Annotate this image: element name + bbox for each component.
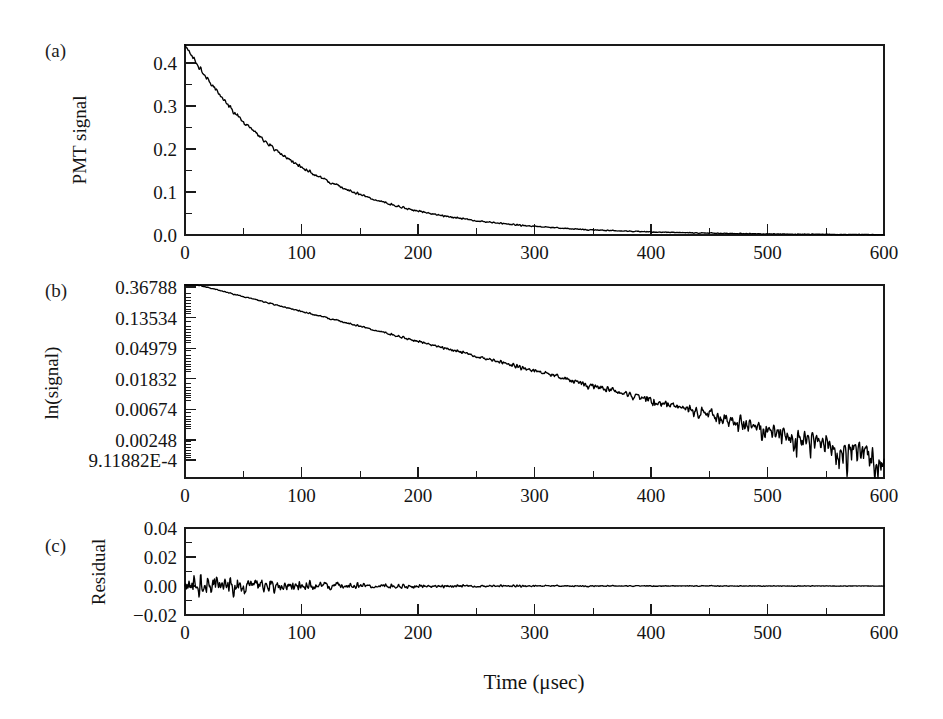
panel-c-ylabel: Residual: [88, 539, 109, 606]
panel-b: (b) ln(signal) 0.36788 0.13534 0.04979 0…: [41, 277, 898, 506]
panel-c-frame: [185, 528, 884, 615]
panel-c-x-ticks: [185, 604, 884, 615]
panel-a-xtick-4: 400: [637, 242, 666, 263]
panel-c-xtick-1: 100: [287, 622, 316, 643]
panel-b-xtick-4: 400: [637, 485, 666, 506]
panel-b-ylabel: ln(signal): [41, 347, 63, 420]
panel-b-ytick-4: 0.00674: [115, 399, 177, 420]
panel-a-ytick-0: 0.4: [153, 53, 177, 74]
panel-c-xtick-6: 600: [870, 622, 899, 643]
panel-c-x-tick-labels: 0 100 200 300 400 500 600: [180, 622, 898, 643]
panel-c-letter: (c): [45, 535, 66, 557]
panel-a-xtick-0: 0: [180, 242, 190, 263]
figure-root: (a) PMT signal 0.4 0.3 0.2 0.1: [0, 0, 943, 719]
panel-b-ytick-5: 0.00248: [115, 430, 177, 451]
panel-b-xtick-5: 500: [753, 485, 782, 506]
panel-a-xtick-1: 100: [287, 242, 316, 263]
panel-b-ytick-0: 0.36788: [115, 277, 177, 298]
panel-a-ytick-3: 0.1: [153, 182, 177, 203]
panel-b-xtick-6: 600: [870, 485, 899, 506]
panel-c-ytick-2: 0.00: [144, 576, 177, 597]
panel-b-xtick-1: 100: [287, 485, 316, 506]
panel-c-ytick-0: 0.04: [144, 518, 178, 539]
panel-c-xtick-5: 500: [753, 622, 782, 643]
panel-a-y-tick-labels: 0.4 0.3 0.2 0.1 0.0: [153, 53, 177, 246]
panel-c-xtick-2: 200: [404, 622, 433, 643]
panel-b-xtick-3: 300: [520, 485, 549, 506]
panel-a-letter: (a): [45, 40, 66, 62]
panel-a-xtick-6: 600: [870, 242, 899, 263]
panel-b-ytick-1: 0.13534: [115, 308, 177, 329]
panel-c-residual-trace: [185, 575, 884, 597]
panel-b-x-tick-labels: 0 100 200 300 400 500 600: [180, 485, 898, 506]
panel-a-x-tick-labels: 0 100 200 300 400 500 600: [180, 242, 898, 263]
panel-b-log-trace: [185, 285, 884, 478]
panel-a-frame: [185, 45, 884, 235]
panel-b-letter: (b): [45, 280, 67, 302]
panel-b-frame: [185, 285, 884, 478]
panel-c-y-tick-labels: 0.04 0.02 0.00 −0.02: [133, 518, 177, 626]
panel-b-ytick-2: 0.04979: [115, 338, 177, 359]
panel-b-y-ticks: [185, 287, 196, 460]
shared-xlabel: Time (μsec): [484, 670, 585, 694]
panel-c-xtick-3: 300: [520, 622, 549, 643]
panel-c-ytick-3: −0.02: [133, 605, 177, 626]
panel-b-x-ticks: [185, 467, 884, 478]
panel-c-xtick-4: 400: [637, 622, 666, 643]
panel-a-ytick-4: 0.0: [153, 225, 177, 246]
panel-a-xtick-2: 200: [404, 242, 433, 263]
figure-canvas: (a) PMT signal 0.4 0.3 0.2 0.1: [0, 0, 943, 719]
panel-c-xtick-0: 0: [180, 622, 190, 643]
panel-a-ytick-2: 0.2: [153, 139, 177, 160]
panel-a-xtick-3: 300: [520, 242, 549, 263]
panel-b-xtick-2: 200: [404, 485, 433, 506]
panel-a-decay-trace: [185, 45, 884, 235]
panel-a-ylabel: PMT signal: [69, 96, 90, 185]
panel-b-ytick-6: 9.11882E-4: [89, 450, 178, 471]
panel-c: (c) Residual 0.04 0.02 0.00 −0.02: [45, 518, 898, 643]
panel-b-xtick-0: 0: [180, 485, 190, 506]
panel-b-ytick-3: 0.01832: [115, 369, 177, 390]
panel-b-y-tick-labels: 0.36788 0.13534 0.04979 0.01832 0.00674 …: [89, 277, 178, 471]
panel-a: (a) PMT signal 0.4 0.3 0.2 0.1: [45, 40, 898, 263]
panel-c-y-ticks: [185, 528, 196, 615]
panel-a-xtick-5: 500: [753, 242, 782, 263]
panel-a-ytick-1: 0.3: [153, 96, 177, 117]
panel-a-x-ticks: [185, 224, 884, 235]
panel-c-ytick-1: 0.02: [144, 547, 177, 568]
panel-a-y-ticks: [185, 63, 196, 235]
